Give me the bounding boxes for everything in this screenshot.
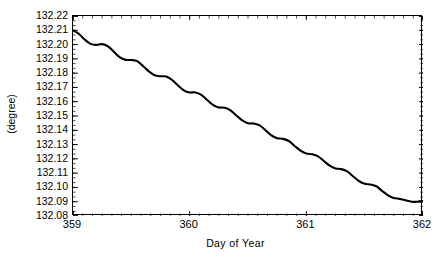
x-axis-tick-label: 362 <box>392 219 437 230</box>
x-axis-minor-ticks <box>83 16 414 216</box>
y-axis-title: (degree) <box>5 77 17 151</box>
x-axis-tick-label: 361 <box>275 219 335 230</box>
y-axis-minor-ticks <box>73 21 423 211</box>
y-axis-tick-label: 132.22 <box>2 10 68 21</box>
y-axis-tick-label: 132.09 <box>2 196 68 207</box>
y-axis-tick-label: 132.20 <box>2 39 68 50</box>
series-line-degree <box>73 30 423 202</box>
data-line-svg <box>73 16 423 216</box>
chart-figure: 132.22132.21132.20132.19132.18132.17132.… <box>0 0 437 257</box>
y-axis-major-ticks <box>73 17 423 216</box>
x-axis-tick-label: 360 <box>159 219 219 230</box>
y-axis-tick-label: 132.21 <box>2 24 68 35</box>
y-axis-tick-label: 132.10 <box>2 181 68 192</box>
x-axis-title-text: Day of Year <box>172 237 265 249</box>
plot-area <box>72 15 422 215</box>
y-axis-tick-label: 132.12 <box>2 153 68 164</box>
x-axis-tick-label: 359 <box>42 219 102 230</box>
x-axis-title: Day of Year <box>0 237 437 249</box>
x-axis-major-ticks <box>74 16 423 216</box>
y-axis-tick-label: 132.19 <box>2 53 68 64</box>
y-axis-tick-label: 132.11 <box>2 167 68 178</box>
